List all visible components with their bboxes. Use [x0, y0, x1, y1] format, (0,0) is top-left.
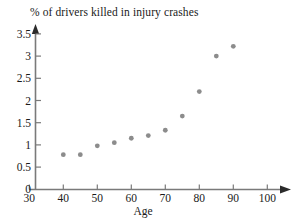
data-point	[61, 152, 66, 157]
y-tick-label: 1.5	[17, 117, 32, 129]
x-axis-label-text: Age	[133, 205, 152, 217]
y-axis-tick-labels: 00.511.522.533.5	[17, 28, 32, 195]
x-axis-label: Age	[0, 205, 306, 217]
y-tick-label: 0.5	[17, 161, 32, 173]
y-tick-label: 0	[25, 183, 31, 195]
x-tick-label: 40	[58, 192, 70, 204]
x-tick-label: 70	[160, 192, 172, 204]
data-point	[197, 89, 202, 94]
x-tick-label: 50	[92, 192, 104, 204]
y-tick-label: 1	[25, 139, 31, 151]
x-tick-label: 100	[259, 192, 277, 204]
plot-area: 30405060708090100 00.511.522.533.5	[0, 0, 306, 224]
data-point	[78, 152, 83, 157]
data-point	[180, 114, 185, 119]
data-point	[112, 140, 117, 145]
x-axis-arrowhead	[280, 186, 291, 194]
x-axis-tick-labels: 30405060708090100	[24, 192, 277, 204]
data-point	[231, 44, 236, 49]
data-points	[61, 44, 236, 157]
x-tick-label: 80	[194, 192, 206, 204]
y-tick-label: 3.5	[17, 28, 32, 40]
data-point	[129, 136, 134, 141]
y-tick-label: 2.5	[17, 72, 32, 84]
data-point	[214, 54, 219, 59]
x-tick-label: 60	[126, 192, 138, 204]
y-tick-label: 2	[25, 95, 31, 107]
data-point	[95, 143, 100, 148]
scatter-chart: % of drivers killed in injury crashes 30…	[0, 0, 306, 224]
data-point	[163, 128, 168, 133]
y-axis-arrowhead	[32, 24, 39, 34]
y-tick-label: 3	[25, 50, 31, 62]
x-tick-label: 90	[228, 192, 240, 204]
data-point	[146, 133, 151, 138]
y-axis-ticks	[36, 34, 42, 167]
axes	[29, 24, 291, 194]
